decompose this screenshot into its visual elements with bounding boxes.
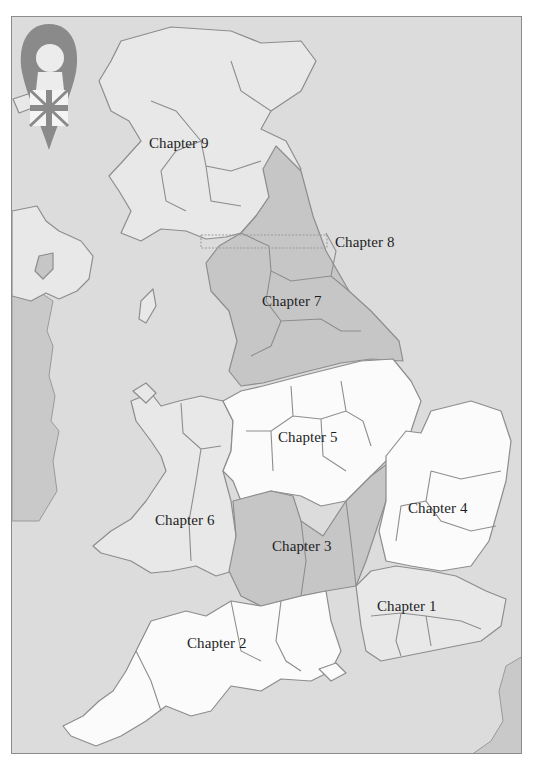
label-chapter-7: Chapter 7 xyxy=(262,293,322,310)
label-chapter-6: Chapter 6 xyxy=(155,512,215,529)
label-chapter-5: Chapter 5 xyxy=(278,429,338,446)
label-chapter-1: Chapter 1 xyxy=(377,598,437,615)
britannia-emblem-icon xyxy=(16,22,82,162)
label-chapter-8: Chapter 8 xyxy=(335,234,395,251)
britain-map xyxy=(12,17,522,754)
label-chapter-4: Chapter 4 xyxy=(408,500,468,517)
label-chapter-3: Chapter 3 xyxy=(272,538,332,555)
map-frame: Chapter 9 Chapter 8 Chapter 7 Chapter 5 … xyxy=(11,16,522,754)
label-chapter-2: Chapter 2 xyxy=(187,635,247,652)
label-chapter-9: Chapter 9 xyxy=(149,135,209,152)
